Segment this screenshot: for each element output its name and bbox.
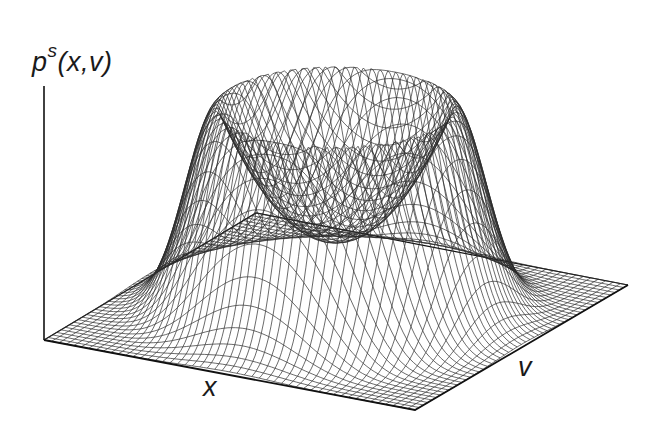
mesh-line: [197, 67, 569, 319]
mesh-line: [385, 279, 598, 404]
mesh-line: [61, 328, 432, 400]
mesh-line: [51, 214, 263, 341]
mesh-line: [252, 216, 624, 288]
v-axis-label: v: [518, 352, 532, 383]
mesh-line: [82, 178, 453, 387]
mesh-line: [141, 72, 353, 358]
mesh-line: [243, 221, 615, 293]
mesh-line: [59, 216, 271, 343]
mesh-line: [57, 332, 428, 402]
mesh-line: [126, 81, 338, 355]
x-axis-label: x: [203, 372, 217, 403]
wireframe-mesh: [44, 67, 628, 410]
z-axis-label: ps(x,v): [32, 44, 113, 78]
